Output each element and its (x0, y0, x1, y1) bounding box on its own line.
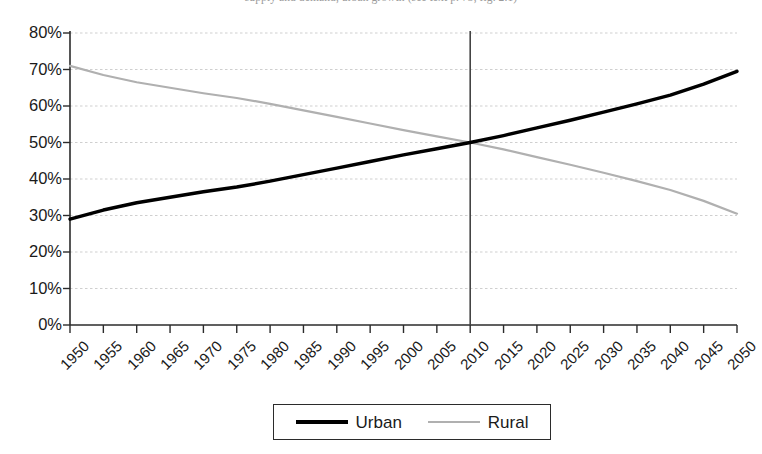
gridlines (70, 33, 737, 289)
legend-entry-rural[interactable]: Rural (428, 414, 529, 431)
urban-line-series (70, 71, 737, 219)
legend-label-urban: Urban (356, 414, 402, 431)
legend-entry-urban[interactable]: Urban (296, 414, 402, 431)
rural-line-swatch-icon (428, 421, 480, 423)
y-axis-labels: 80%70%60%50%40%30%20%10%0% (0, 0, 62, 340)
y-axis-tick-label: 40% (2, 170, 62, 187)
y-axis-tick-label: 10% (2, 280, 62, 297)
y-axis-tick-label: 80% (2, 24, 62, 41)
y-axis-tick-label: 20% (2, 243, 62, 260)
urban-line-swatch-icon (296, 420, 348, 424)
chart-legend: Urban Rural (273, 404, 551, 440)
y-axis-tick-label: 60% (2, 97, 62, 114)
x-axis-labels: 1950195519601965197019751980198519901995… (0, 326, 762, 396)
y-axis-tick-label: 30% (2, 207, 62, 224)
y-axis-tick-marks (63, 33, 70, 325)
y-axis-tick-label: 70% (2, 61, 62, 78)
rural-line-series (70, 66, 737, 214)
chart-page: supply and demand, urban growth (see tex… (0, 0, 762, 454)
urban-rural-population-line-chart: 80%70%60%50%40%30%20%10%0% 1950195519601… (0, 0, 762, 454)
y-axis-tick-label: 50% (2, 134, 62, 151)
legend-label-rural: Rural (488, 414, 529, 431)
